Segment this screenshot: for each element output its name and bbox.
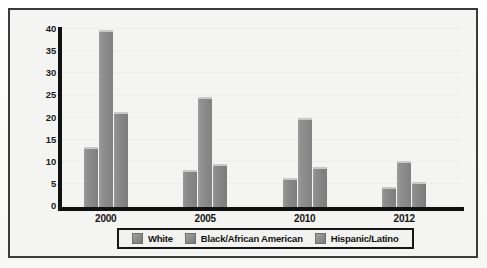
bar-series-container [62,28,460,207]
y-axis-tick-label: 5 [30,179,56,188]
x-axis: 2000200520102012 [62,213,460,229]
bar[interactable] [114,112,128,207]
bar[interactable] [298,118,312,207]
legend-item[interactable]: Hispanic/Latino [315,233,399,244]
bar-group [84,28,128,207]
x-axis-tick-label: 2005 [185,213,225,224]
legend-swatch-icon [315,233,326,244]
chart-figure: 0510152025303540 2000200520102012 WhiteB… [0,0,487,268]
legend-label: Black/African American [201,233,303,244]
y-axis-tick-label: 0 [30,201,56,210]
chart-frame: 0510152025303540 2000200520102012 WhiteB… [8,8,478,258]
bar[interactable] [84,147,98,207]
legend-label: Hispanic/Latino [331,233,399,244]
bar[interactable] [382,187,396,207]
bar[interactable] [198,97,212,207]
plot-container: 0510152025303540 2000200520102012 WhiteB… [10,10,480,260]
bar-group [382,28,426,207]
y-axis-tick-label: 25 [30,90,56,99]
bar[interactable] [183,170,197,207]
chart-legend: WhiteBlack/African AmericanHispanic/Lati… [117,228,414,249]
bar[interactable] [99,30,113,207]
bar-group [283,28,327,207]
bar[interactable] [397,161,411,207]
y-axis-tick-label: 40 [30,24,56,33]
y-axis-tick-label: 15 [30,135,56,144]
legend-swatch-icon [185,233,196,244]
y-axis-tick-label: 20 [30,113,56,122]
legend-item[interactable]: White [132,233,173,244]
y-axis-tick-label: 30 [30,68,56,77]
bar[interactable] [283,178,297,207]
legend-swatch-icon [132,233,143,244]
y-axis-tick-label: 10 [30,157,56,166]
legend-item[interactable]: Black/African American [185,233,303,244]
y-axis-tick-label: 35 [30,46,56,55]
bar-group [183,28,227,207]
legend-label: White [148,233,173,244]
bar[interactable] [313,167,327,207]
x-axis-line [58,207,464,211]
y-axis: 0510152025303540 [28,10,56,260]
x-axis-tick-label: 2000 [86,213,126,224]
bar[interactable] [213,164,227,207]
x-axis-tick-label: 2012 [384,213,424,224]
x-axis-tick-label: 2010 [285,213,325,224]
bar[interactable] [412,182,426,207]
